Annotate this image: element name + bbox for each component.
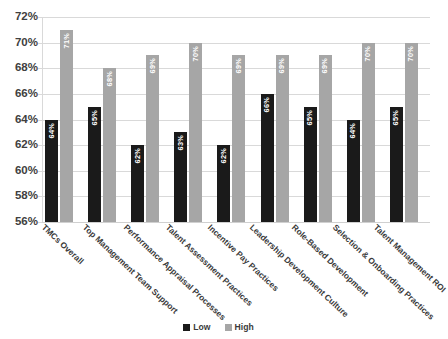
x-axis-label: TMCs Overall (40, 223, 85, 266)
bar-value-label: 62% (220, 148, 227, 163)
bar-low[interactable]: 63% (174, 132, 187, 222)
bar-value-label: 69% (235, 58, 242, 73)
bar-value-label: 64% (48, 123, 55, 138)
x-axis-category-labels: TMCs OverallTop Management Team SupportP… (0, 223, 437, 313)
bar-value-label: 69% (321, 58, 328, 73)
bar-low[interactable]: 62% (131, 145, 144, 222)
bar-group: 64%70% (344, 17, 387, 222)
bar-value-label: 66% (263, 97, 270, 112)
legend-item-high[interactable]: High (225, 323, 254, 332)
bar-low[interactable]: 65% (88, 107, 101, 222)
plot-area: 64%71%65%68%62%69%63%70%62%69%66%69%65%6… (42, 17, 430, 222)
bar-value-label: 70% (408, 46, 415, 61)
bar-value-label: 63% (177, 135, 184, 150)
x-axis-label: Talent Management ROI (373, 223, 448, 294)
x-axis-label: Incentive Pay Practices (206, 223, 280, 293)
bar-group: 62%69% (214, 17, 257, 222)
y-axis-tick-label: 72% (4, 11, 38, 23)
bar-group: 62%69% (128, 17, 171, 222)
bar-low[interactable]: 65% (390, 107, 403, 222)
legend-swatch-icon (183, 324, 190, 331)
bar-low[interactable]: 62% (217, 145, 230, 222)
y-axis-tick-label: 60% (4, 165, 38, 177)
bar-high[interactable]: 69% (319, 55, 332, 222)
y-axis-tick-label: 64% (4, 114, 38, 126)
bar-high[interactable]: 70% (362, 43, 375, 222)
y-axis-tick-label: 58% (4, 191, 38, 203)
y-axis-tick-label: 70% (4, 37, 38, 49)
bar-value-label: 64% (350, 123, 357, 138)
legend-swatch-icon (225, 324, 232, 331)
bar-high[interactable]: 69% (146, 55, 159, 222)
y-axis: 72%70%68%66%64%62%60%58%56% (0, 17, 38, 223)
bar-group: 65%69% (301, 17, 344, 222)
x-axis-label: Talent Assessment Practices (164, 223, 254, 308)
bar-value-label: 62% (134, 148, 141, 163)
y-axis-tick-label: 68% (4, 63, 38, 75)
x-axis-label: Role-Based Development (290, 223, 370, 298)
bar-high[interactable]: 69% (232, 55, 245, 222)
bar-low[interactable]: 64% (347, 120, 360, 223)
bar-group: 65%68% (85, 17, 128, 222)
bar-low[interactable]: 65% (304, 107, 317, 222)
y-axis-tick-label: 62% (4, 139, 38, 151)
bar-high[interactable]: 70% (405, 43, 418, 222)
bar-value-label: 70% (365, 46, 372, 61)
bar-group: 65%70% (387, 17, 430, 222)
y-axis-tick-label: 66% (4, 88, 38, 100)
bar-value-label: 69% (278, 58, 285, 73)
legend-label: High (235, 323, 254, 332)
bar-value-label: 65% (393, 110, 400, 125)
bar-value-label: 68% (106, 71, 113, 86)
bar-high[interactable]: 68% (103, 68, 116, 222)
bar-value-label: 71% (63, 33, 70, 48)
chart-legend: LowHigh (0, 320, 437, 334)
bar-value-label: 65% (306, 110, 313, 125)
bar-group: 64%71% (42, 17, 85, 222)
bar-value-label: 65% (91, 110, 98, 125)
bar-group: 63%70% (171, 17, 214, 222)
legend-label: Low (193, 323, 210, 332)
bar-group: 66%69% (258, 17, 301, 222)
chart-title (34, 0, 424, 3)
bar-value-label: 70% (192, 46, 199, 61)
legend-item-low[interactable]: Low (183, 323, 210, 332)
bar-high[interactable]: 70% (189, 43, 202, 222)
bar-low[interactable]: 66% (261, 94, 274, 222)
bar-value-label: 69% (149, 58, 156, 73)
bar-low[interactable]: 64% (45, 120, 58, 223)
bar-high[interactable]: 71% (60, 30, 73, 222)
bar-high[interactable]: 69% (276, 55, 289, 222)
